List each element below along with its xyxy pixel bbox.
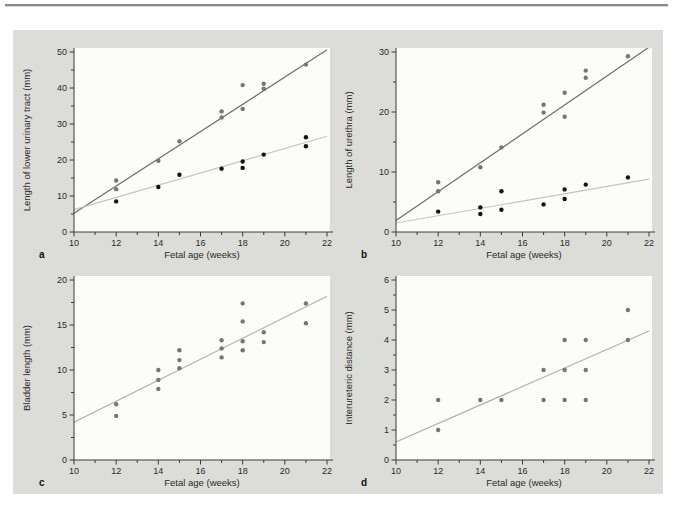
data-point-upper-series [114,187,118,191]
x-tick-label: 18 [560,238,570,248]
scatter-panel-c: 1012141618202205101520Bladder length (mm… [17,264,337,492]
y-tick-label: 0 [384,455,389,465]
data-point-upper-series [262,87,266,91]
x-tick-label: 20 [280,238,290,248]
data-point-single-series [240,348,244,352]
y-tick-label: 0 [384,227,389,237]
data-point-upper-series [262,81,266,85]
x-tick-label: 10 [69,238,79,248]
x-tick-label: 16 [517,238,527,248]
y-tick-label: 50 [57,47,67,57]
x-tick-label: 20 [602,466,612,476]
scatter-panel-d: 101214161820220123456Interureteric dista… [339,264,659,492]
panel-letter: a [39,249,45,260]
data-point-single-series [562,398,566,402]
page: 1012141618202201020304050Length of lower… [0,0,678,512]
plot-area [74,276,330,460]
x-tick-label: 10 [391,466,401,476]
x-tick-label: 14 [475,466,485,476]
data-point-single-series [541,398,545,402]
x-tick-label: 12 [111,238,121,248]
x-tick-label: 12 [111,466,121,476]
y-axis-title: Length of lower urinary tract (mm) [21,69,32,212]
y-tick-label: 2 [384,395,389,405]
data-point-single-series [436,428,440,432]
data-point-single-series [584,368,588,372]
figure-panel: 1012141618202201020304050Length of lower… [13,30,663,494]
data-point-upper-series [219,109,223,113]
y-tick-label: 20 [57,275,67,285]
x-tick-label: 18 [238,238,248,248]
horizontal-rule [5,4,668,7]
y-tick-label: 10 [57,365,67,375]
data-point-upper-series [156,159,160,163]
data-point-upper-series [436,189,440,193]
data-point-upper-series [541,103,545,107]
x-tick-label: 14 [475,238,485,248]
scatter-panel-b: 101214161820220102030Length of urethra (… [339,36,659,264]
y-tick-label: 10 [379,167,389,177]
data-point-single-series [626,308,630,312]
data-point-single-series [156,368,160,372]
x-tick-label: 16 [517,466,527,476]
x-tick-label: 10 [69,466,79,476]
panel-letter: b [361,249,367,260]
data-point-single-series [156,378,160,382]
data-point-lower-series [478,205,482,209]
y-tick-label: 1 [384,425,389,435]
data-point-lower-series [562,197,566,201]
data-point-upper-series [304,62,308,66]
data-point-single-series [262,330,266,334]
y-tick-label: 20 [379,107,389,117]
data-point-upper-series [219,115,223,119]
data-point-upper-series [541,110,545,114]
data-point-single-series [219,355,223,359]
data-point-single-series [304,321,308,325]
y-tick-label: 4 [384,335,389,345]
data-point-upper-series [240,83,244,87]
data-point-single-series [562,338,566,342]
data-point-single-series [478,398,482,402]
x-tick-label: 20 [602,238,612,248]
data-point-single-series [219,346,223,350]
y-tick-label: 3 [384,365,389,375]
data-point-lower-series [584,182,588,186]
data-point-single-series [499,398,503,402]
x-tick-label: 12 [433,466,443,476]
y-tick-label: 0 [62,227,67,237]
x-axis-title: Fetal age (weeks) [164,249,240,260]
data-point-upper-series [499,145,503,149]
data-point-upper-series [436,180,440,184]
data-point-single-series [156,387,160,391]
data-point-lower-series [219,166,223,170]
data-point-lower-series [436,209,440,213]
data-point-upper-series [584,76,588,80]
y-tick-label: 6 [384,275,389,285]
data-point-lower-series [240,159,244,163]
data-point-lower-series [562,187,566,191]
y-tick-label: 10 [57,191,67,201]
data-point-lower-series [541,202,545,206]
data-point-single-series [114,402,118,406]
x-axis-title: Fetal age (weeks) [164,477,240,488]
data-point-single-series [584,338,588,342]
y-tick-label: 40 [57,83,67,93]
data-point-lower-series [262,152,266,156]
y-tick-label: 20 [57,155,67,165]
data-point-lower-series [240,166,244,170]
plot-area [396,48,652,232]
data-point-single-series [304,301,308,305]
data-point-single-series [626,338,630,342]
data-point-upper-series [177,139,181,143]
data-point-upper-series [562,91,566,95]
data-point-lower-series [304,135,308,139]
x-tick-label: 22 [322,466,332,476]
data-point-single-series [240,339,244,343]
data-point-lower-series [114,199,118,203]
data-point-single-series [562,368,566,372]
data-point-lower-series [156,185,160,189]
x-tick-label: 16 [195,466,205,476]
data-point-upper-series [114,178,118,182]
panel-letter: d [361,477,367,488]
data-point-single-series [177,358,181,362]
